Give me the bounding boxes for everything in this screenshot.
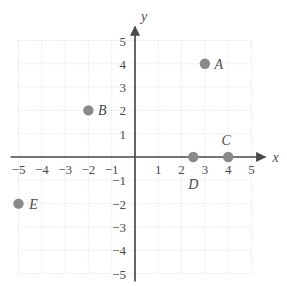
point-label: B [98,103,107,118]
x-tick-label: −3 [58,162,72,177]
point-marker [83,105,93,115]
point-marker [223,152,233,162]
y-tick-label: −4 [112,243,126,258]
point-label: C [222,133,232,148]
y-tick-label: −2 [112,197,126,212]
y-tick-label: 1 [120,127,127,142]
data-point-c: C [222,133,234,162]
x-tick-label: 4 [225,162,232,177]
y-axis-name: y [139,9,148,24]
y-tick-label: 3 [120,80,127,95]
data-point-e: E [13,197,38,212]
x-axis-name: x [271,150,279,165]
data-point-a: A [200,57,224,72]
y-tick-label: 2 [120,103,127,118]
data-point-b: B [83,103,107,118]
x-tick-label: 5 [248,162,255,177]
y-tick-label: −3 [112,220,126,235]
y-tick-label: −5 [112,267,126,282]
x-tick-label: −4 [35,162,49,177]
x-tick-label: 1 [155,162,162,177]
point-marker [13,198,23,208]
point-marker [200,59,210,69]
y-tick-label: 4 [120,57,127,72]
y-tick-label: 5 [120,34,127,49]
x-tick-label: 3 [202,162,209,177]
y-tick-label: −1 [112,173,126,188]
data-point-d: D [187,152,198,192]
point-label: E [28,197,38,212]
coordinate-plane-svg: −5−4−3−2−112345−5−4−3−2−112345 xy ABCDE [0,0,287,286]
coordinate-plane-figure: −5−4−3−2−112345−5−4−3−2−112345 xy ABCDE [0,0,287,286]
point-label: D [187,177,198,192]
point-marker [188,152,198,162]
x-tick-label: −5 [12,162,26,177]
point-label: A [214,57,224,72]
x-tick-label: 2 [178,162,185,177]
x-tick-label: −2 [81,162,95,177]
